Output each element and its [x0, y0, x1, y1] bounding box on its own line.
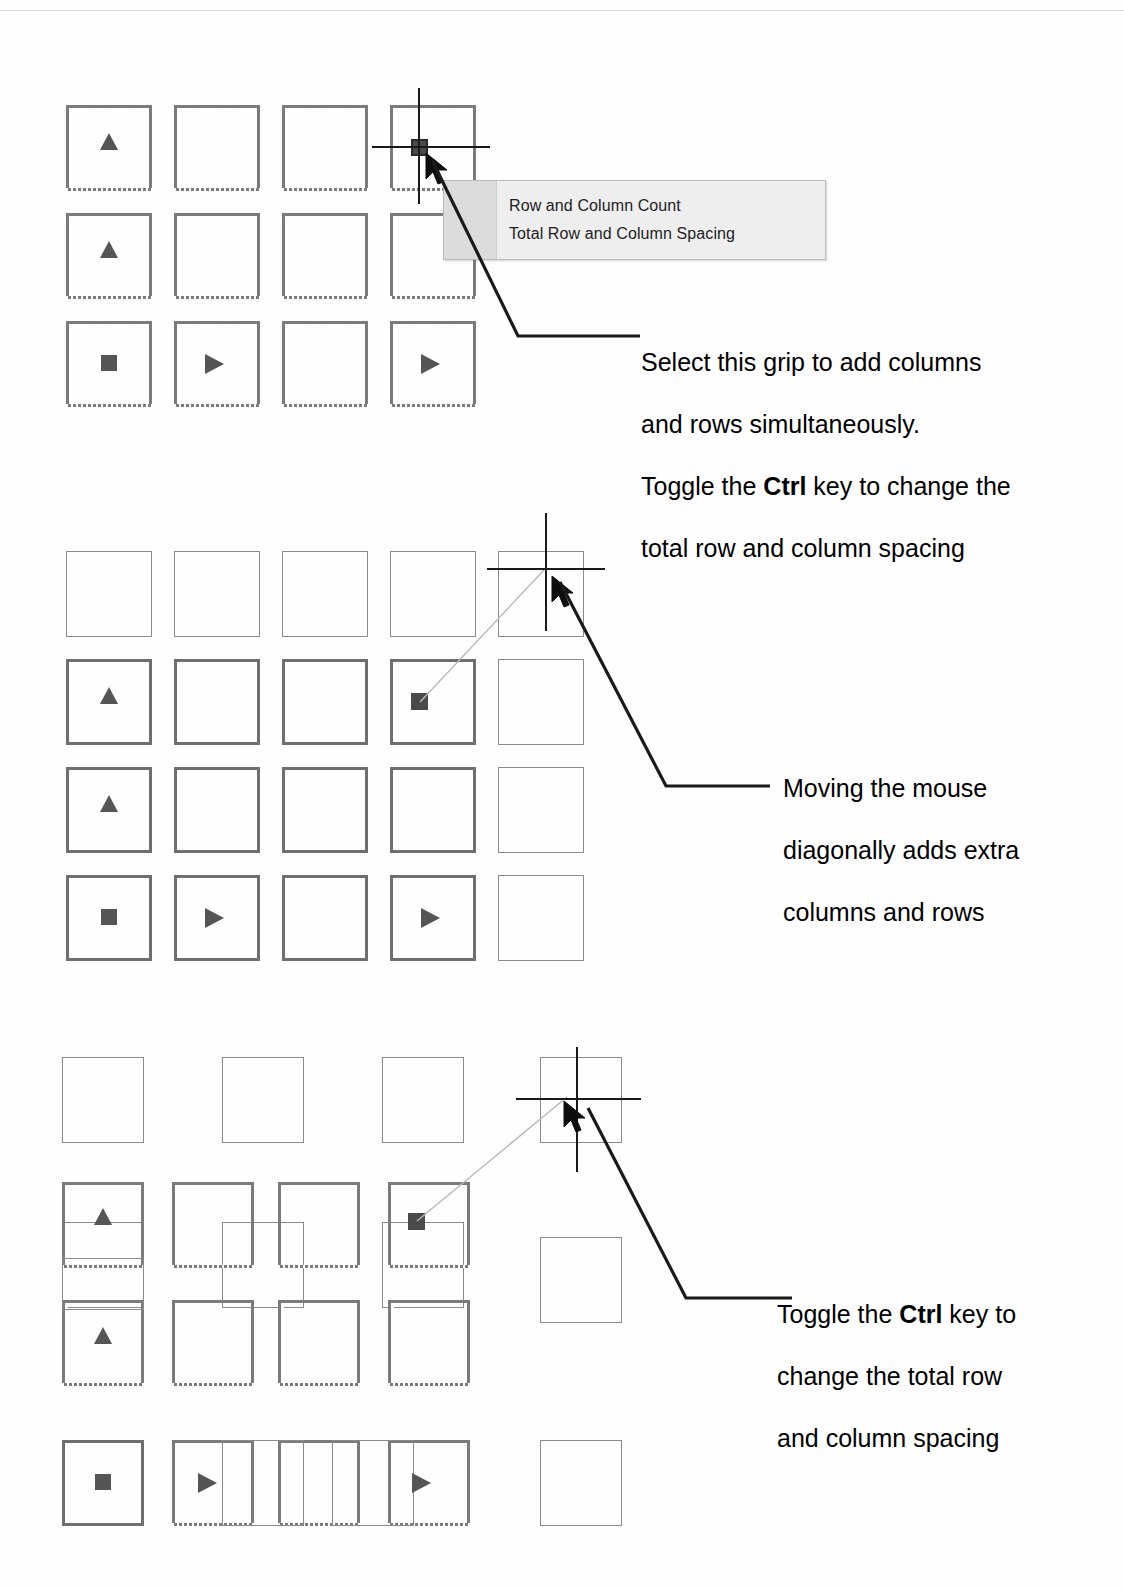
array-cell[interactable]: [282, 659, 368, 745]
array-cell[interactable]: [388, 1300, 470, 1386]
preview-cell[interactable]: [282, 551, 368, 637]
ghost-overlap-cell: [222, 1440, 304, 1526]
array-cell[interactable]: [282, 105, 368, 191]
array-cell[interactable]: [282, 767, 368, 853]
array-cell[interactable]: [282, 875, 368, 961]
callout-line: and rows simultaneously.: [641, 409, 1081, 440]
ghost-overlap-cell: [62, 1258, 144, 1310]
crosshair-horizontal: [487, 568, 605, 570]
callout-line: diagonally adds extra: [783, 835, 1113, 866]
callout-line: columns and rows: [783, 897, 1113, 928]
callout-2-text: Moving the mouse diagonally adds extra c…: [783, 742, 1113, 959]
array-cell[interactable]: [62, 1440, 144, 1526]
array-cell[interactable]: [174, 875, 260, 961]
callout-line: change the total row: [777, 1361, 1107, 1392]
callout-line: Moving the mouse: [783, 773, 1113, 804]
ghost-overlap-cell: [332, 1440, 414, 1526]
array-cell[interactable]: [66, 213, 152, 299]
preview-cell[interactable]: [174, 551, 260, 637]
array-cell[interactable]: [174, 213, 260, 299]
callout-1-text: Select this grip to add columns and rows…: [641, 316, 1081, 595]
preview-cell[interactable]: [222, 1057, 304, 1143]
callout-3-text: Toggle the Ctrl key to change the total …: [777, 1268, 1107, 1485]
scan-artifact-line: [0, 10, 1124, 11]
array-cell[interactable]: [66, 875, 152, 961]
illustration-page: Row and Column Count Total Row and Colum…: [0, 0, 1124, 1589]
array-cell[interactable]: [172, 1182, 254, 1268]
callout-line: Toggle the Ctrl key to: [777, 1299, 1107, 1330]
preview-cell[interactable]: [540, 1440, 622, 1526]
leader-line-2: [548, 574, 788, 804]
array-cell[interactable]: [66, 767, 152, 853]
array-cell[interactable]: [66, 321, 152, 407]
array-cell[interactable]: [174, 321, 260, 407]
array-cell[interactable]: [66, 105, 152, 191]
crosshair-vertical: [545, 513, 547, 631]
array-cell[interactable]: [390, 767, 476, 853]
array-cell[interactable]: [174, 767, 260, 853]
preview-cell[interactable]: [498, 875, 584, 961]
array-cell[interactable]: [174, 659, 260, 745]
array-cell[interactable]: [278, 1182, 360, 1268]
callout-line: Toggle the Ctrl key to change the: [641, 471, 1081, 502]
callout-line: Select this grip to add columns: [641, 347, 1081, 378]
callout-line: total row and column spacing: [641, 533, 1081, 564]
preview-cell[interactable]: [62, 1057, 144, 1143]
array-cell[interactable]: [62, 1300, 144, 1386]
array-cell[interactable]: [278, 1300, 360, 1386]
array-cell[interactable]: [282, 213, 368, 299]
array-cell[interactable]: [66, 659, 152, 745]
callout-line: and column spacing: [777, 1423, 1107, 1454]
rubber-band-preview-line: [405, 1085, 585, 1235]
array-cell[interactable]: [174, 105, 260, 191]
crosshair-horizontal: [372, 146, 490, 148]
array-cell[interactable]: [172, 1300, 254, 1386]
leader-line-1: [420, 150, 660, 350]
array-cell[interactable]: [282, 321, 368, 407]
array-cell[interactable]: [390, 875, 476, 961]
preview-cell[interactable]: [66, 551, 152, 637]
array-cell[interactable]: [62, 1182, 144, 1268]
